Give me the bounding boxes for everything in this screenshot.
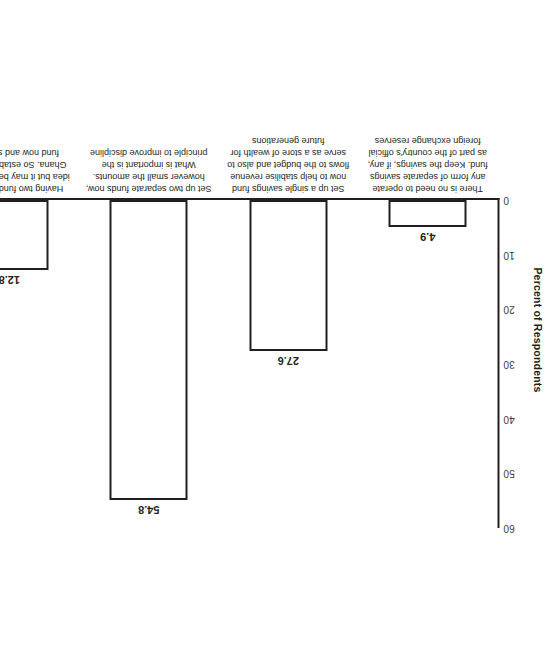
category-label: Having two funds is a good idea but it m… [0,146,79,194]
y-tick-label: 30 [504,358,528,369]
bar-value-label: 27.6 [278,354,299,366]
bar[interactable]: 54.8 [110,200,188,500]
bar-slot: 4.9 [358,200,498,528]
bar[interactable]: 12.8 [0,200,48,270]
y-axis-tick-labels: 0102030405060 [502,198,528,528]
bar-slot: 27.6 [219,200,359,528]
x-axis-category-labels: There is no need to operate any form of … [0,116,498,194]
category-label: Set up a single savings fund now to help… [219,134,359,193]
chart-plot-area: Percent of Respondents 0102030405060 4.9… [0,114,546,546]
bar-value-label: 54.8 [138,503,159,515]
y-tick-label: 20 [504,303,528,314]
bar[interactable]: 4.9 [389,200,467,227]
y-tick-label: 40 [504,413,528,424]
y-tick-label: 60 [504,522,528,533]
y-axis-line [498,198,500,528]
category-label: There is no need to operate any form of … [358,134,498,193]
bar-series: 4.927.654.812.8 [0,200,498,528]
plot-canvas: 4.927.654.812.8 [0,198,500,528]
y-tick-label: 50 [504,467,528,478]
category-label: Set up two separate funds now, however s… [79,146,219,194]
bar-value-label: 12.8 [0,273,20,285]
bar-chart-figure: Percent of Respondents 0102030405060 4.9… [0,114,546,546]
y-axis-title: Percent of Respondents [528,114,544,546]
bar-slot: 12.8 [0,200,79,528]
y-tick-label: 0 [504,194,528,205]
bar-slot: 54.8 [79,200,219,528]
bar-value-label: 4.9 [420,230,435,242]
bar[interactable]: 27.6 [249,200,327,351]
y-tick-label: 10 [504,249,528,260]
